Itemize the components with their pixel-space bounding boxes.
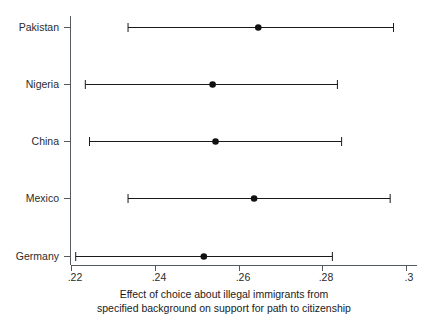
y-tick-label-germany: Germany: [16, 250, 60, 262]
point-estimate-marker[interactable]: [251, 195, 258, 202]
x-axis-caption-line-2: specified background on support for path…: [97, 302, 351, 314]
estimate-row: [90, 137, 342, 146]
y-tick-label-nigeria: Nigeria: [26, 78, 59, 90]
estimate-row: [128, 194, 390, 203]
point-estimate-marker[interactable]: [212, 138, 219, 145]
y-tick-marks: [64, 28, 70, 257]
plot-area: Pakistan Nigeria China Mexico Germany .2…: [0, 0, 423, 327]
point-estimate-marker[interactable]: [255, 24, 262, 31]
x-tick-label-3: .28: [319, 271, 334, 283]
estimate-row: [128, 23, 393, 32]
y-tick-label-mexico: Mexico: [26, 192, 59, 204]
x-tick-label-2: .26: [236, 271, 251, 283]
y-tick-label-china: China: [32, 135, 60, 147]
point-estimate-marker[interactable]: [201, 253, 208, 260]
x-tick-label-1: .24: [152, 271, 167, 283]
point-estimate-marker[interactable]: [209, 81, 216, 88]
x-tick-label-4: .3: [405, 271, 414, 283]
y-tick-label-pakistan: Pakistan: [19, 21, 59, 33]
estimate-series: [76, 23, 394, 261]
coefficient-plot: Pakistan Nigeria China Mexico Germany .2…: [0, 0, 423, 327]
estimate-row: [76, 252, 333, 261]
estimate-row: [85, 80, 337, 89]
x-axis-caption-line-1: Effect of choice about illegal immigrant…: [120, 288, 329, 300]
x-tick-label-0: .22: [68, 271, 83, 283]
